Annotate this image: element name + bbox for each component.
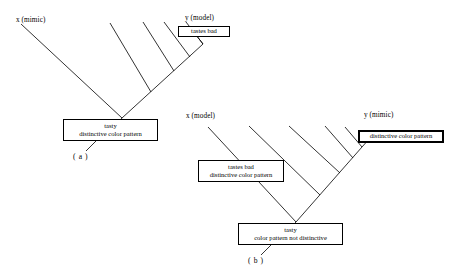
panel-a-tastes-bad-line-1: tastes bad <box>191 27 217 35</box>
panel-b-tastes-bad-distinctive-box: tastes bad distinctive color pattern <box>198 160 284 182</box>
panel-a-backbone <box>122 44 203 118</box>
panel-a-branch-x-mimic <box>21 24 122 118</box>
panel-b-root-state-line-1: tasty <box>284 226 296 234</box>
panel-b-root-state-line-2: color pattern not distinctive <box>254 234 327 242</box>
panel-a-caption-connector <box>86 141 96 151</box>
panel-b-branch-3 <box>289 126 340 173</box>
panel-a-taxon-label-x-mimic: x (mimic) <box>16 16 45 24</box>
panel-b-distinctive-line-1: distinctive color pattern <box>370 132 433 140</box>
panel-a-root-state-line-1: tasty <box>104 122 116 130</box>
panel-b-backbone <box>296 147 362 222</box>
panel-a-branch-2 <box>110 23 151 92</box>
panel-b-caption: ( b ) <box>248 256 264 265</box>
panel-b-taxon-label-x-model: x (model) <box>186 112 215 120</box>
panel-a-taxon-label-y-model: y (model) <box>185 14 214 22</box>
panel-a-root-state-line-2: distinctive color pattern <box>79 130 142 138</box>
panel-b-taxon-label-y-mimic: y (mimic) <box>364 111 393 119</box>
panel-b-caption-connector <box>261 245 271 255</box>
panel-b-root-state-box: tasty color pattern not distinctive <box>238 223 343 245</box>
panel-b-distinctive-color-pattern-box: distinctive color pattern <box>358 130 444 143</box>
panel-a-tastes-bad-box: tastes bad <box>178 26 230 37</box>
panel-b-branch-4 <box>325 126 353 158</box>
panel-a-caption: ( a ) <box>73 152 88 161</box>
panel-b-tastes-bad-line-2: distinctive color pattern <box>210 171 273 179</box>
cladogram-figure: x (mimic) y (model) tastes bad tasty dis… <box>0 0 454 280</box>
panel-b-tastes-bad-line-1: tastes bad <box>228 163 254 171</box>
panel-a-root-state-box: tasty distinctive color pattern <box>63 119 158 141</box>
